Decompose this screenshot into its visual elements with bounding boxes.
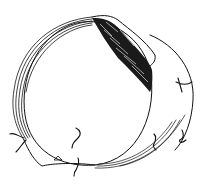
suture-icon [176,78,192,92]
suture-icon [153,134,156,150]
outer-bulge-outline [150,35,193,150]
lower-flap-outline [24,140,95,166]
illustration-canvas [0,0,207,184]
suture-icon [10,133,26,152]
hatched-mass-icon [92,18,152,92]
striated-wall-lower-icon [95,115,185,168]
suture-icon [74,158,79,176]
suture-icon [72,128,80,148]
striated-wall-icon [13,17,92,140]
suture-icon [179,130,186,142]
specimen-drawing [0,0,207,184]
